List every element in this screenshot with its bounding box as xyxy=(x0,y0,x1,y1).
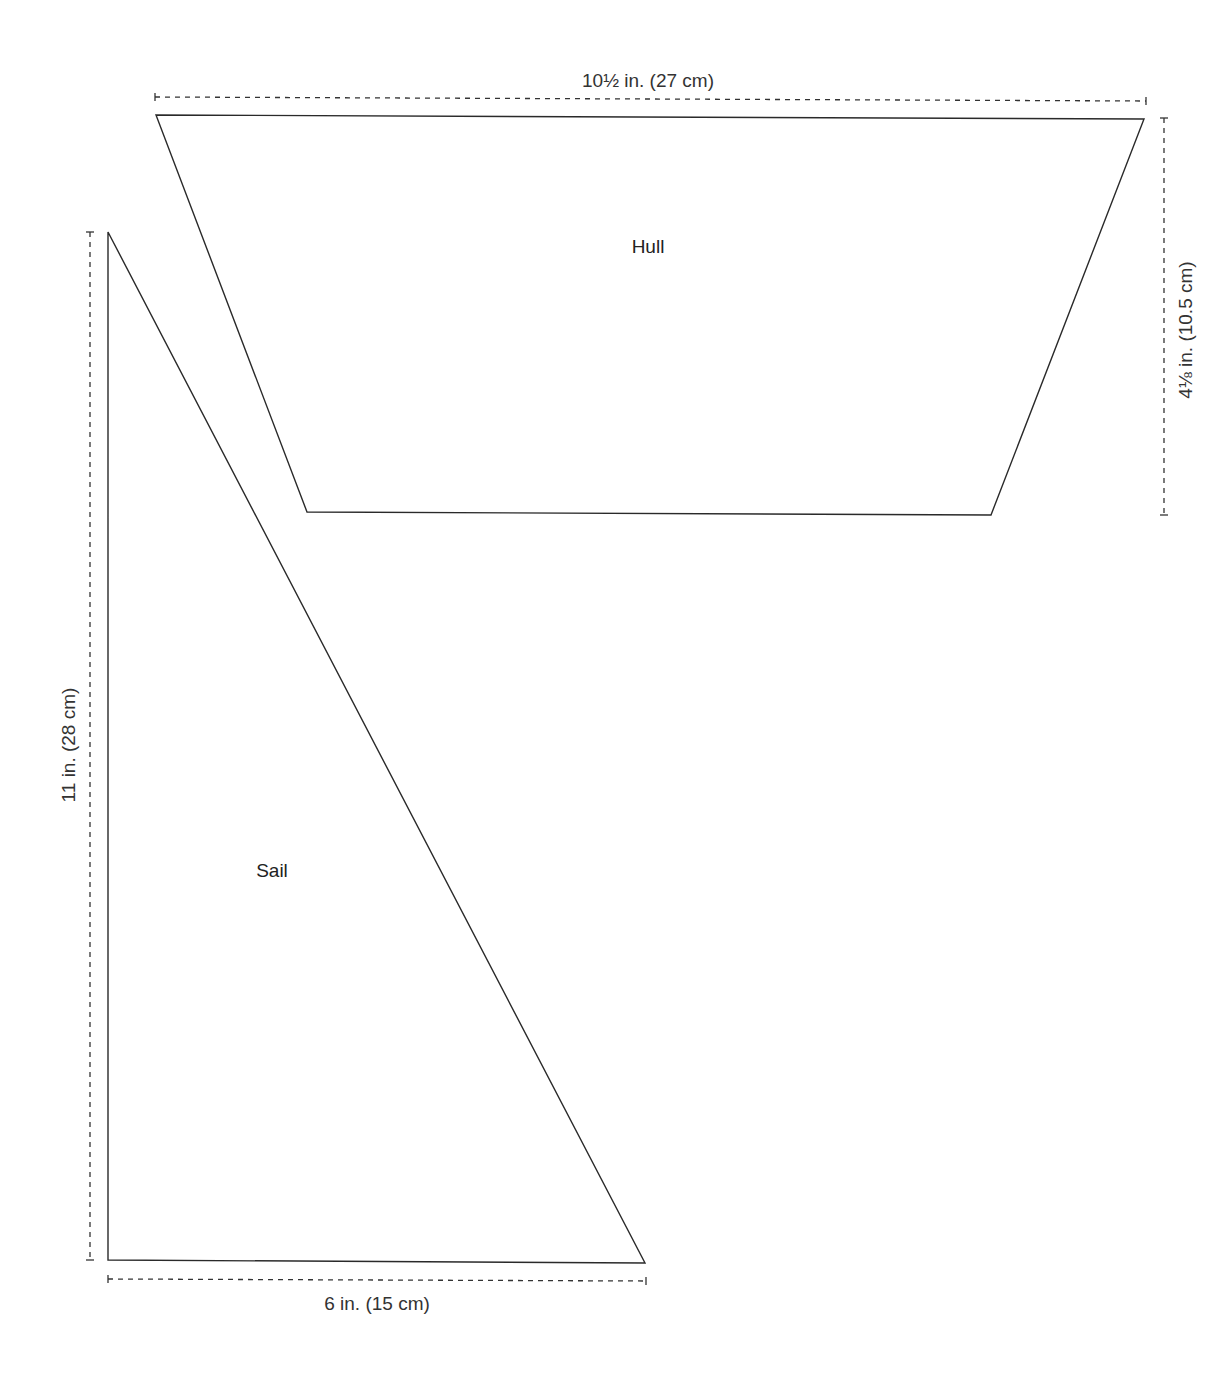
sail-height-label: 11 in. (28 cm) xyxy=(58,688,79,803)
sail-piece: Sail xyxy=(108,232,645,1263)
sail-height-dimension: 11 in. (28 cm) xyxy=(58,232,94,1260)
sail-label: Sail xyxy=(256,860,288,881)
hull-outline xyxy=(156,115,1144,515)
sail-width-label: 6 in. (15 cm) xyxy=(324,1293,430,1314)
hull-height-label: 4⅛ in. (10.5 cm) xyxy=(1175,261,1196,398)
hull-piece: Hull xyxy=(156,115,1144,515)
hull-height-dimension: 4⅛ in. (10.5 cm) xyxy=(1160,118,1196,515)
hull-label: Hull xyxy=(632,236,665,257)
hull-width-dimension: 10½ in. (27 cm) xyxy=(155,70,1146,105)
sail-width-dimension: 6 in. (15 cm) xyxy=(108,1275,646,1314)
pattern-diagram: Hull 10½ in. (27 cm) 4⅛ in. (10.5 cm) Sa… xyxy=(0,0,1232,1381)
sail-outline xyxy=(108,232,645,1263)
hull-width-label: 10½ in. (27 cm) xyxy=(582,70,714,91)
